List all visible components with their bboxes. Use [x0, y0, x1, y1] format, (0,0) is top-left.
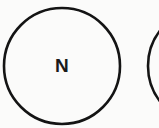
- node-circle-partial: [148, 8, 159, 124]
- diagram-canvas: N: [0, 0, 159, 128]
- node-label-n: N: [55, 56, 69, 75]
- diagram-svg: [0, 0, 159, 128]
